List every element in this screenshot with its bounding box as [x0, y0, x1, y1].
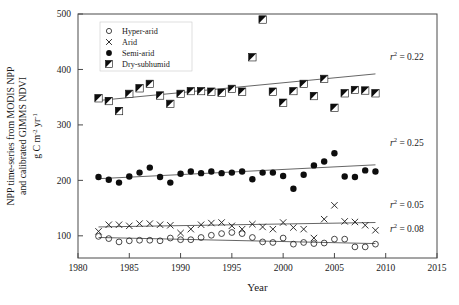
r2-annotation-arid: r2 = 0.05	[390, 198, 424, 210]
data-point	[177, 230, 183, 236]
x-tick-label: 2000	[274, 263, 293, 273]
data-point	[177, 90, 184, 97]
data-point	[341, 90, 348, 97]
data-point	[157, 174, 163, 180]
y-axis-title-line: NPP time-series from MODIS NPP	[5, 66, 16, 206]
data-point	[208, 88, 215, 95]
data-point	[259, 16, 266, 23]
data-point	[332, 236, 338, 242]
data-point	[126, 90, 133, 97]
data-point	[300, 172, 306, 178]
data-point	[188, 168, 194, 174]
data-point	[239, 226, 245, 232]
data-point	[290, 185, 296, 191]
data-point	[280, 219, 286, 225]
legend-item-label: Hyper-arid	[122, 27, 158, 36]
r2-annotation-hyper-arid: r2 = 0.08	[390, 222, 424, 234]
data-point	[290, 224, 296, 230]
y-axis-title: NPP time-series from MODIS NPPand calibr…	[5, 66, 42, 206]
data-point	[321, 240, 327, 246]
data-point	[341, 173, 347, 179]
data-point	[229, 230, 235, 236]
data-point	[187, 87, 194, 94]
legend-item-label: Dry-subhumid	[122, 60, 170, 69]
data-point	[341, 218, 347, 224]
data-point	[126, 223, 132, 229]
data-point	[259, 169, 265, 175]
data-point	[290, 87, 297, 94]
data-point	[188, 226, 194, 232]
data-point	[106, 61, 113, 68]
data-point	[167, 235, 173, 241]
data-point	[238, 88, 245, 95]
data-point	[147, 164, 153, 170]
data-point	[239, 168, 245, 174]
data-point	[167, 222, 173, 228]
x-tick-label: 1990	[171, 263, 190, 273]
data-point	[280, 173, 286, 179]
data-point	[372, 90, 379, 97]
data-point	[198, 222, 204, 228]
data-point	[115, 107, 122, 114]
data-point	[218, 170, 224, 176]
data-point	[331, 202, 337, 208]
data-point	[372, 227, 378, 233]
data-point	[156, 92, 163, 99]
data-point	[157, 222, 163, 228]
y-tick-label: 200	[57, 176, 72, 186]
data-point	[331, 104, 338, 111]
data-point	[249, 54, 256, 61]
series-arid	[95, 202, 378, 241]
trendline-hyper-arid	[99, 237, 376, 243]
data-point	[228, 85, 235, 92]
data-point	[136, 169, 142, 175]
data-point	[136, 85, 143, 92]
data-point	[352, 174, 358, 180]
series-hyper-arid	[96, 230, 379, 250]
data-point	[96, 233, 102, 239]
data-point	[106, 50, 112, 56]
data-point	[279, 99, 286, 106]
legend-item-label: Semi-arid	[122, 49, 154, 58]
data-point	[300, 80, 307, 87]
data-point	[229, 169, 235, 175]
data-point	[270, 169, 276, 175]
data-point	[320, 75, 327, 82]
data-point	[208, 168, 214, 174]
data-point	[116, 239, 122, 245]
data-point	[280, 235, 286, 241]
data-point	[342, 236, 348, 242]
figure-container: 19801985199019952000200520102015Year1002…	[0, 0, 459, 305]
data-point	[362, 87, 369, 94]
npp-timeseries-scatter-chart: 19801985199019952000200520102015Year1002…	[0, 0, 459, 305]
data-point	[311, 241, 317, 247]
y-axis-title-line: and calibrated GIMMS NDVI	[17, 77, 28, 195]
legend: Hyper-aridAridSemi-aridDry-subhumid	[100, 22, 192, 71]
data-point	[126, 173, 132, 179]
series-semi-arid	[95, 150, 378, 192]
y-tick-label: 500	[57, 9, 72, 19]
data-point	[352, 244, 358, 250]
data-point	[95, 174, 101, 180]
data-point	[352, 219, 358, 225]
x-tick-label: 1980	[69, 263, 88, 273]
x-tick-label: 2005	[325, 263, 344, 273]
data-point	[229, 223, 235, 229]
data-point	[373, 241, 379, 247]
x-tick-label: 1995	[222, 263, 241, 273]
data-point	[219, 231, 225, 237]
data-point	[116, 179, 122, 185]
data-point	[311, 235, 317, 241]
x-tick-label: 2010	[376, 263, 395, 273]
data-point	[208, 232, 214, 238]
data-point	[249, 235, 255, 241]
y-tick-label: 100	[57, 231, 72, 241]
data-point	[260, 239, 266, 245]
data-point	[105, 97, 112, 104]
data-point	[95, 95, 102, 102]
data-point	[106, 236, 112, 242]
data-point	[218, 89, 225, 96]
data-point	[269, 88, 276, 95]
data-point	[126, 238, 132, 244]
data-point	[372, 168, 378, 174]
